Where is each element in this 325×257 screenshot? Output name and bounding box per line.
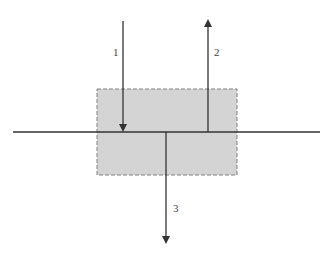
diagram-svg: 123 [0,0,325,257]
arrow-label-2: 2 [214,46,220,58]
arrow-label-1: 1 [113,46,119,58]
arrow-label-3: 3 [173,202,179,214]
diagram-canvas: 123 [0,0,325,257]
